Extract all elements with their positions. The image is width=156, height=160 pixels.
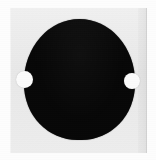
image-canvas [0, 0, 156, 160]
right-white-dot-marker [124, 73, 140, 89]
disc-sheen [24, 19, 135, 140]
black-disc [24, 19, 135, 140]
left-white-dot-marker [16, 71, 33, 88]
